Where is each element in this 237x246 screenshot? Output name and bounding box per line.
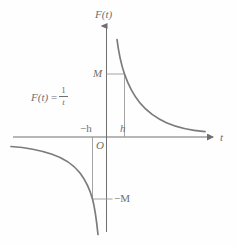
figure-container: F(t) t M −M h −h O F(t) = 1 t <box>0 0 237 246</box>
fraction-numerator: 1 <box>59 86 68 96</box>
m-tick-label: M <box>93 68 102 79</box>
f-axis-label: F(t) <box>95 9 112 20</box>
equation-equals: = <box>51 91 57 103</box>
t-axis-label: t <box>220 132 223 143</box>
h-tick-label: h <box>120 123 126 134</box>
neg-h-tick-label: −h <box>80 123 92 134</box>
origin-label: O <box>96 140 104 151</box>
neg-m-tick-label: −M <box>114 193 130 204</box>
curve-branch-negative <box>11 147 98 235</box>
equation-fraction: 1 t <box>59 86 68 107</box>
equation-annotation: F(t) = 1 t <box>31 86 68 107</box>
equation-lhs: F(t) <box>31 91 48 103</box>
hyperbola-plot <box>0 0 237 246</box>
curve-branch-positive <box>117 40 205 132</box>
fraction-denominator: t <box>60 97 67 107</box>
